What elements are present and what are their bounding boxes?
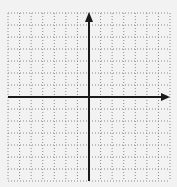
coordinate-plane <box>0 0 177 187</box>
x-axis-arrow-icon <box>161 93 170 101</box>
